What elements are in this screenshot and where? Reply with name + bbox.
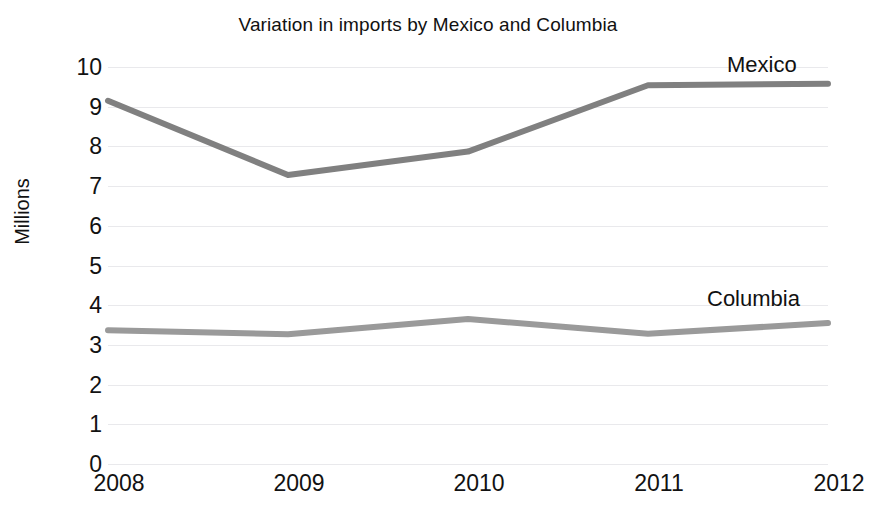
series-lines [108,67,828,464]
x-axis-tick-label: 2012 [779,472,869,495]
x-axis-tick-label: 2010 [419,472,539,495]
y-axis-tick-label: 10 [18,56,102,79]
plot-area [108,67,828,464]
x-axis-tick-label: 2011 [599,472,719,495]
x-axis-tick-label: 2008 [59,472,179,495]
x-axis-tick-labels: 20082009201020112012 [108,472,828,508]
x-axis-tick-label: 2009 [239,472,359,495]
y-axis-tick-label: 6 [18,215,102,238]
y-axis-tick-label: 5 [18,255,102,278]
gridline [108,464,828,465]
y-axis-tick-labels: 109876543210 [14,67,102,464]
y-axis-tick-label: 8 [18,135,102,158]
y-axis-tick-label: 4 [18,294,102,317]
series-line-mexico [108,84,828,175]
y-axis-tick-label: 3 [18,334,102,357]
y-axis-tick-label: 7 [18,175,102,198]
series-label-mexico: Mexico [727,54,797,76]
y-axis-tick-label: 9 [18,96,102,119]
chart-title: Variation in imports by Mexico and Colum… [0,14,856,36]
series-label-columbia: Columbia [707,288,800,310]
y-axis-tick-label: 1 [18,413,102,436]
series-line-columbia [108,319,828,334]
y-axis-tick-label: 2 [18,374,102,397]
